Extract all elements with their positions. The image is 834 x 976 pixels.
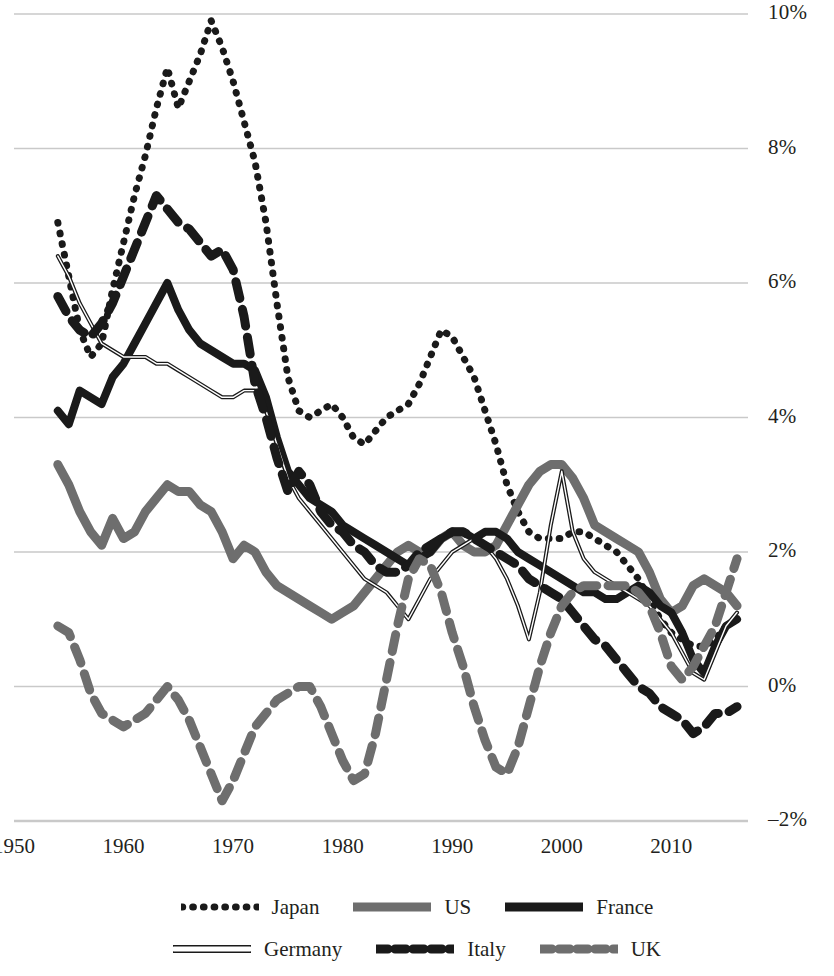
legend-swatch-solid-black <box>505 900 583 914</box>
x-axis-label-1980: 1980 <box>322 834 364 859</box>
y-axis-label-2: 2% <box>768 538 796 563</box>
legend-entry-france[interactable]: France <box>505 895 653 920</box>
legend-row: GermanyItalyUK <box>0 928 834 970</box>
legend-label: UK <box>631 937 661 962</box>
y-axis-label-2-neg: –2% <box>768 807 807 832</box>
legend-entry-uk[interactable]: UK <box>540 937 661 962</box>
x-axis-label-1990: 1990 <box>431 834 473 859</box>
legend-row: JapanUSFrance <box>0 886 834 928</box>
legend-entry-germany[interactable]: Germany <box>173 937 376 962</box>
series-line-italy <box>58 196 737 734</box>
productivity-growth-chart: –2%0%2%4%6%8%10% 19501960197019801990200… <box>0 0 834 976</box>
y-axis-label-6: 6% <box>768 269 796 294</box>
x-axis-label-2010: 2010 <box>650 834 692 859</box>
legend-label: Japan <box>272 895 320 920</box>
legend-swatch-dotted-black <box>181 900 259 914</box>
legend-label: Italy <box>467 937 505 962</box>
legend-label: France <box>596 895 653 920</box>
y-axis-label-0: 0% <box>768 673 796 698</box>
legend-swatch-dashed-gray <box>540 942 618 956</box>
legend-label: US <box>444 895 471 920</box>
data-series-group <box>58 21 737 801</box>
x-axis-label-1950: 1950 <box>0 834 35 859</box>
legend-swatch-solid-gray <box>353 900 431 914</box>
chart-legend: JapanUSFranceGermanyItalyUK <box>0 886 834 970</box>
y-axis-label-8: 8% <box>768 135 796 160</box>
x-axis-label-2000: 2000 <box>541 834 583 859</box>
legend-entry-italy[interactable]: Italy <box>376 937 539 962</box>
chart-plot-area <box>0 0 834 976</box>
y-axis-label-4: 4% <box>768 404 796 429</box>
x-axis-label-1970: 1970 <box>212 834 254 859</box>
x-axis-label-1960: 1960 <box>103 834 145 859</box>
legend-entry-us[interactable]: US <box>353 895 505 920</box>
legend-swatch-dashed-black <box>376 942 454 956</box>
y-axis-label-10: 10% <box>768 0 807 25</box>
legend-swatch-thin-outline-black <box>173 942 251 956</box>
legend-label: Germany <box>264 937 342 962</box>
legend-entry-japan[interactable]: Japan <box>181 895 354 920</box>
